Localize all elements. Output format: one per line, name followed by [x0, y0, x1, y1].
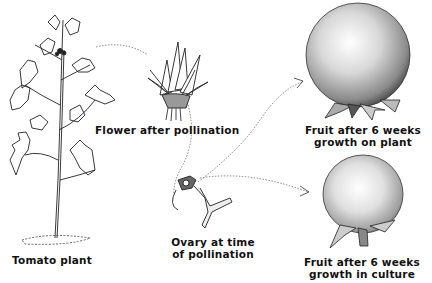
arrowhead-fruit-plant	[294, 78, 303, 88]
label-line: Ovary at time	[158, 236, 268, 248]
label-line: Flower after pollination	[95, 124, 239, 136]
label-line: Fruit after 6 weeks	[294, 124, 432, 136]
ovary-drawing	[172, 176, 232, 228]
label-flower: Flower after pollination	[95, 124, 239, 136]
label-tomato-plant: Tomato plant	[12, 254, 92, 266]
arrow-ovary-to-fruit-culture	[200, 176, 308, 192]
label-fruit-plant: Fruit after 6 weeks growth on plant	[294, 124, 432, 148]
diagram-canvas: Tomato plant Flower after pollination Ov…	[0, 0, 432, 283]
arrow-plant-to-flower	[96, 45, 148, 55]
fruit-in-culture-drawing	[323, 155, 403, 248]
label-ovary: Ovary at time of pollination	[158, 236, 268, 260]
label-line: growth in culture	[292, 268, 432, 280]
fruit-on-plant-drawing	[306, 3, 410, 120]
arrowhead-fruit-culture	[300, 186, 309, 196]
label-line: Tomato plant	[12, 254, 92, 266]
label-fruit-culture: Fruit after 6 weeks growth in culture	[292, 256, 432, 280]
flower-drawing	[148, 42, 208, 121]
label-line: Fruit after 6 weeks	[292, 256, 432, 268]
label-line: growth on plant	[294, 136, 432, 148]
label-line: of pollination	[158, 248, 268, 260]
